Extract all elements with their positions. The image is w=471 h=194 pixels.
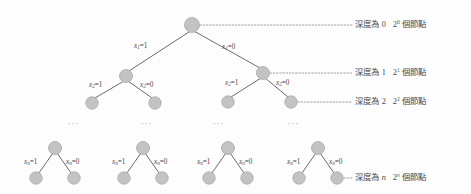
ellipsis-2: ··· [141,120,152,129]
ellipsis-1: ··· [68,120,79,129]
edge-bottom-2-left [127,153,141,173]
edge-label-x1-1: x1=1 [134,43,147,51]
edge-label-xn-4: xn=0 [154,159,167,167]
edge-label-xn-5: xn=1 [197,159,210,167]
edge-label-xn-1: xn=1 [24,159,37,167]
tree-node-bottom-apex-4 [312,142,325,155]
depth-annotation-depth-n: 深度為 n2n 個節點 [355,173,426,183]
edge-bottom-1-left [39,153,53,173]
tree-node-depth2-4 [285,96,297,108]
edge-label-x1-2: x1=0 [222,44,235,52]
depth-annotation-depth-1: 深度為 121 個節點 [355,68,426,78]
edge-bottom-4-left [302,153,316,173]
tree-node-depth2-1 [86,97,98,109]
edge-label-x2-3: x2=1 [225,80,238,88]
tree-node-depth1-1 [120,70,133,83]
tree-node-bottom-leaf-2b [156,172,168,184]
tree-diagram-figure: x1=1x1=0x2=1x2=0x2=1x2=0xn=1xn=0xn=1xn=0… [0,0,471,194]
depth-annotation-depth-0: 深度為 020 個節點 [355,20,426,30]
depth-annotation-depth-2: 深度為 222 個節點 [355,97,426,107]
ellipsis-4: ··· [288,120,299,129]
edge-root-left [129,30,192,71]
tree-node-bottom-apex-1 [49,142,62,155]
tree-node-bottom-leaf-4a [293,172,305,184]
tree-node-depth2-3 [222,96,234,108]
tree-node-bottom-leaf-2a [118,172,130,184]
tree-node-bottom-leaf-3a [203,172,215,184]
tree-node-bottom-apex-2 [137,142,150,155]
tree-node-bottom-leaf-3b [241,172,253,184]
edge-label-xn-7: xn=1 [287,159,300,167]
edge-bottom-3-left [212,153,226,173]
edge-label-xn-3: xn=1 [112,159,125,167]
edge-label-x2-2: x2=0 [140,82,153,90]
tree-node-depth2-2 [149,97,161,109]
tree-node-bottom-leaf-1b [68,172,80,184]
edge-label-xn-8: xn=0 [329,159,342,167]
edge-label-xn-2: xn=0 [66,159,79,167]
edge-label-x2-1: x2=1 [89,82,102,90]
tree-node-bottom-leaf-1a [30,172,42,184]
edge-label-xn-6: xn=0 [239,159,252,167]
tree-node-depth1-2 [257,67,270,80]
edge-label-x2-4: x2=0 [276,80,289,88]
ellipsis-3: ··· [213,120,224,129]
tree-node-bottom-apex-3 [222,142,235,155]
tree-node-root [185,18,200,33]
tree-node-bottom-leaf-4b [331,172,343,184]
